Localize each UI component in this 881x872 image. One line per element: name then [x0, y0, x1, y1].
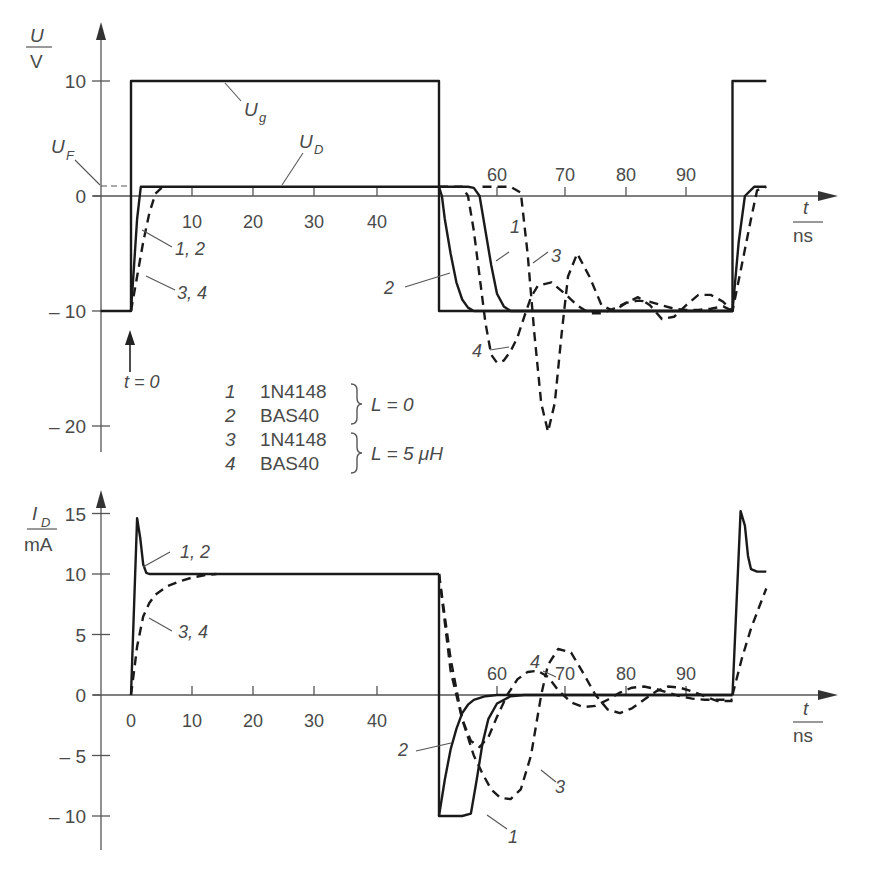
- x-tick-label: 0: [126, 711, 136, 731]
- x-tick-label: 40: [367, 212, 387, 232]
- x-tick-label: 10: [182, 711, 202, 731]
- brace-icon: [351, 433, 362, 473]
- ug-label: U: [244, 99, 258, 120]
- y-tick-label: 15: [65, 504, 86, 525]
- y-tick-label: – 20: [49, 416, 86, 437]
- brace-icon: [351, 384, 362, 424]
- series-line: [483, 187, 767, 432]
- series-line: [439, 695, 733, 816]
- y-tick-label: – 10: [49, 301, 86, 322]
- legend-condition-l0: L = 0: [371, 394, 414, 415]
- x-tick-label: 10: [182, 212, 202, 232]
- label-1-2-upper: 1, 2: [175, 239, 205, 259]
- current-chart: I D mA 151050– 5– 10 01020304060708090 t…: [24, 490, 838, 850]
- label-2-lower: 2: [397, 740, 408, 760]
- label-4-upper: 4: [472, 341, 482, 361]
- t0-label: t = 0: [124, 372, 160, 392]
- current-series: [131, 511, 766, 816]
- x-tick-label: 30: [304, 212, 324, 232]
- diode-switching-figure: U V 100– 10– 20 1020304060708090 t ns U …: [0, 0, 881, 872]
- voltage-y-label-num: U: [30, 25, 44, 46]
- legend-device-4: BAS40: [260, 453, 319, 474]
- legend-num-1: 1: [225, 381, 236, 402]
- label-1-lower: 1: [508, 827, 518, 847]
- y-tick-label: 0: [75, 186, 86, 207]
- legend-num-4: 4: [225, 453, 236, 474]
- current-y-axis-arrow-icon: [96, 490, 106, 508]
- series-line: [131, 187, 168, 311]
- current-x-axis-arrow-icon: [818, 690, 838, 700]
- label-3-upper: 3: [551, 246, 561, 266]
- label-3-4-lower: 3, 4: [178, 622, 208, 642]
- series-line: [439, 574, 733, 799]
- voltage-chart: U V 100– 10– 20 1020304060708090 t ns U …: [26, 22, 838, 474]
- series-line: [439, 187, 733, 311]
- legend-device-1: 1N4148: [260, 381, 327, 402]
- label-3-lower: 3: [555, 777, 565, 797]
- legend-device-3: 1N4148: [260, 429, 327, 450]
- current-x-label-den: ns: [793, 725, 813, 746]
- svg-text:g: g: [259, 110, 267, 125]
- x-tick-label: 70: [555, 664, 575, 684]
- svg-text:D: D: [41, 515, 50, 530]
- t0-arrow-icon: [125, 330, 135, 345]
- voltage-y-label-den: V: [30, 51, 43, 72]
- voltage-x-label-num: t: [803, 197, 809, 218]
- y-tick-label: 0: [75, 685, 86, 706]
- label-1-2-lower: 1, 2: [180, 542, 210, 562]
- y-tick-label: 10: [65, 564, 86, 585]
- x-tick-label: 40: [367, 711, 387, 731]
- x-tick-label: 20: [243, 212, 263, 232]
- x-tick-label: 60: [487, 165, 507, 185]
- current-x-label-num: t: [803, 698, 809, 719]
- x-tick-label: 80: [616, 664, 636, 684]
- uf-label: U: [51, 136, 65, 157]
- voltage-y-axis-arrow-icon: [96, 22, 106, 40]
- series-line: [439, 187, 766, 311]
- label-4-lower: 4: [530, 652, 540, 672]
- label-3-4-upper: 3, 4: [177, 283, 207, 303]
- voltage-x-label-den: ns: [793, 225, 813, 246]
- voltage-annotations: U g U D U F 1, 2 3, 4 t = 0 1 3 2 4: [51, 83, 561, 392]
- y-tick-label: 10: [65, 71, 86, 92]
- y-tick-label: – 5: [60, 746, 86, 767]
- y-tick-label: – 10: [49, 806, 86, 827]
- y-tick-label: 5: [75, 625, 86, 646]
- legend-device-2: BAS40: [260, 405, 319, 426]
- x-tick-label: 90: [676, 664, 696, 684]
- x-tick-label: 80: [616, 165, 636, 185]
- legend-num-2: 2: [224, 405, 236, 426]
- svg-text:F: F: [66, 148, 75, 163]
- legend: 1 1N4148 2 BAS40 3 1N4148 4 BAS40 L = 0 …: [224, 381, 443, 474]
- legend-condition-l5: L = 5 μH: [371, 443, 443, 464]
- voltage-x-axis-arrow-icon: [818, 191, 838, 201]
- label-1-upper: 1: [510, 217, 520, 237]
- x-tick-label: 60: [487, 664, 507, 684]
- series-line: [439, 574, 733, 747]
- x-tick-label: 90: [676, 165, 696, 185]
- svg-text:D: D: [314, 142, 323, 157]
- current-x-ticks: 01020304060708090: [126, 664, 696, 731]
- x-tick-label: 70: [555, 165, 575, 185]
- legend-num-3: 3: [225, 429, 236, 450]
- x-tick-label: 30: [304, 711, 324, 731]
- series-line: [131, 518, 439, 695]
- current-y-label-den: mA: [24, 534, 53, 555]
- x-tick-label: 20: [243, 711, 263, 731]
- label-2-upper: 2: [383, 278, 394, 298]
- current-y-label-num: I: [32, 503, 38, 524]
- ud-label: U: [299, 131, 313, 152]
